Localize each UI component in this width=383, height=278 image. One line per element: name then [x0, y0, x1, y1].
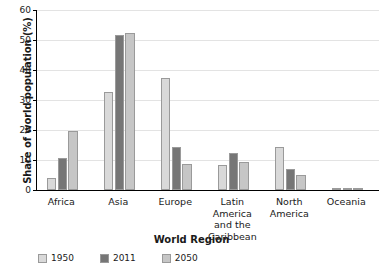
bar [343, 188, 352, 190]
bar [239, 162, 248, 190]
bar [229, 153, 238, 190]
y-axis-tick-label: 0 [25, 186, 31, 195]
legend-item[interactable]: 2011 [100, 254, 136, 263]
bar [68, 131, 77, 190]
y-axis-tick-mark [33, 70, 37, 71]
bar [161, 78, 170, 191]
bar [172, 147, 181, 191]
y-axis-tick-label: 40 [20, 66, 31, 75]
gridline [37, 40, 379, 41]
legend-swatch-icon [38, 254, 47, 263]
bar [332, 188, 341, 190]
x-axis-category-label: Oceania [318, 196, 375, 208]
x-axis-category-label: Europe [147, 196, 204, 208]
legend-swatch-icon [162, 254, 171, 263]
chart-legend: 195020112050 [38, 254, 224, 263]
y-axis-tick-mark [33, 160, 37, 161]
bar [104, 92, 113, 190]
gridline [37, 70, 379, 71]
legend-swatch-icon [100, 254, 109, 263]
x-axis-category-label: North America [261, 196, 318, 219]
x-axis-category-label: Africa [33, 196, 90, 208]
bar [275, 147, 284, 190]
x-axis-title: World Region [0, 234, 383, 245]
bar [353, 188, 362, 190]
plot-area: 0102030405060 [36, 10, 379, 191]
legend-item[interactable]: 2050 [162, 254, 198, 263]
legend-item[interactable]: 1950 [38, 254, 74, 263]
y-axis-tick-mark [33, 190, 37, 191]
legend-label: 2050 [175, 254, 198, 263]
y-axis-tick-mark [33, 100, 37, 101]
bar [115, 35, 124, 190]
gridline [37, 10, 379, 11]
y-axis-tick-mark [33, 130, 37, 131]
legend-label: 1950 [51, 254, 74, 263]
y-axis-tick-label: 20 [20, 126, 31, 135]
gridline [37, 100, 379, 101]
legend-label: 2011 [113, 254, 136, 263]
gridline [37, 160, 379, 161]
bar [182, 164, 191, 190]
y-axis-tick-label: 60 [20, 6, 31, 15]
x-axis-category-label: Asia [90, 196, 147, 208]
y-axis-tick-mark [33, 10, 37, 11]
y-axis-tick-label: 10 [20, 156, 31, 165]
y-axis-tick-label: 30 [20, 96, 31, 105]
y-axis-tick-mark [33, 40, 37, 41]
bar [125, 33, 134, 191]
bar [47, 178, 56, 190]
bar [58, 158, 67, 190]
y-axis-tick-label: 50 [20, 36, 31, 45]
bar-chart: Share of world population (%) 0102030405… [0, 0, 383, 278]
bar [218, 165, 227, 190]
bar [296, 175, 305, 190]
bar [286, 169, 295, 190]
gridline [37, 130, 379, 131]
